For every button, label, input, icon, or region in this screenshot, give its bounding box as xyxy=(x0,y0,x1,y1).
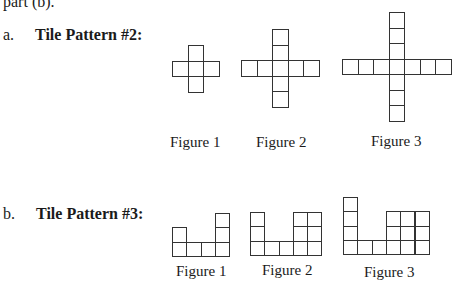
tile-square xyxy=(215,213,230,228)
tile-square xyxy=(186,242,201,257)
tile-square xyxy=(272,45,289,62)
tile-square xyxy=(389,28,406,45)
tile-square xyxy=(435,59,452,76)
tile-square xyxy=(389,12,406,29)
item-title-tile-pattern-3: Tile Pattern #3: xyxy=(36,206,143,222)
tile-square xyxy=(415,240,430,255)
tile-square xyxy=(241,60,258,77)
pattern-2-figure-1-label: Figure 1 xyxy=(170,135,220,150)
tile-square xyxy=(215,242,230,257)
tile-square xyxy=(272,60,289,77)
tile-square xyxy=(404,59,421,76)
tile-square xyxy=(188,61,205,78)
tile-square xyxy=(420,59,437,76)
tile-square xyxy=(172,242,187,257)
pattern-2-figure-2-label: Figure 2 xyxy=(256,135,306,150)
tile-square xyxy=(272,29,289,46)
lead-text: part (b). xyxy=(3,0,55,10)
tile-square xyxy=(172,61,189,78)
tile-square xyxy=(215,227,230,242)
tile-square xyxy=(386,211,401,226)
tile-square xyxy=(389,74,406,91)
tile-square xyxy=(203,61,220,78)
tile-square xyxy=(188,76,205,93)
tile-square xyxy=(250,226,265,241)
tile-square xyxy=(400,226,415,241)
pattern-3-figure-3-label: Figure 3 xyxy=(364,265,414,280)
tile-square xyxy=(415,211,430,226)
tile-square xyxy=(293,226,308,241)
tile-square xyxy=(357,240,372,255)
tile-square xyxy=(272,76,289,93)
tile-square xyxy=(201,242,216,257)
tile-square xyxy=(250,241,265,256)
pattern-3-figure-1-label: Figure 1 xyxy=(176,264,226,279)
tile-square xyxy=(279,241,294,256)
tile-square xyxy=(372,240,387,255)
tile-square xyxy=(343,197,358,212)
tile-square xyxy=(307,226,322,241)
tile-square xyxy=(293,241,308,256)
tile-square xyxy=(386,240,401,255)
tile-square xyxy=(389,90,406,107)
tile-square xyxy=(172,227,187,242)
tile-square xyxy=(293,212,308,227)
tile-square xyxy=(358,59,375,76)
tile-square xyxy=(400,240,415,255)
tile-square xyxy=(373,59,390,76)
tile-square xyxy=(307,212,322,227)
tile-square xyxy=(343,240,358,255)
tile-square xyxy=(250,212,265,227)
tile-square xyxy=(307,241,322,256)
tile-square xyxy=(257,60,274,77)
tile-square xyxy=(389,43,406,60)
tile-square xyxy=(389,59,406,76)
tile-square xyxy=(303,60,320,77)
pattern-2-figure-3-label: Figure 3 xyxy=(371,134,421,149)
tile-square xyxy=(264,241,279,256)
tile-square xyxy=(343,211,358,226)
item-letter-a: a. xyxy=(3,27,14,43)
item-letter-b: b. xyxy=(3,206,15,222)
tile-square xyxy=(386,226,401,241)
tile-square xyxy=(343,226,358,241)
tile-square xyxy=(400,211,415,226)
tile-square xyxy=(288,60,305,77)
item-title-tile-pattern-2: Tile Pattern #2: xyxy=(35,27,142,43)
pattern-3-figure-2-label: Figure 2 xyxy=(262,263,312,278)
tile-square xyxy=(272,91,289,108)
tile-square xyxy=(342,59,359,76)
tile-square xyxy=(415,226,430,241)
tile-square xyxy=(389,105,406,122)
tile-square xyxy=(188,45,205,62)
